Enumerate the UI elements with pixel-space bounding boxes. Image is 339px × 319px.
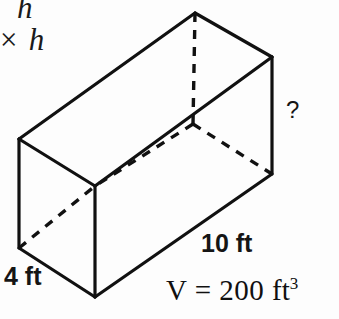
length-dimension-label: 10 ft: [201, 231, 252, 256]
hidden-edge-back-bottom-right: [193, 124, 272, 174]
edge-top-left-long: [19, 13, 195, 139]
volume-unit: ft: [272, 274, 290, 306]
edge-top-back-right: [195, 13, 272, 57]
edge-top-front-long: [95, 57, 272, 186]
volume-equals-sign: =: [195, 274, 212, 306]
volume-exponent: 3: [290, 274, 299, 293]
volume-equation: V = 200 ft3: [166, 276, 299, 305]
depth-dimension-label: 4 ft: [4, 264, 42, 289]
hidden-edge-floor-diagonal-left: [19, 186, 95, 248]
volume-value: 200: [219, 274, 264, 306]
unknown-height-label: ?: [286, 98, 299, 122]
volume-variable: V: [166, 274, 187, 306]
geometry-figure: h × h 4 ft 10 ft ? V = 200 ft3: [0, 0, 339, 319]
hidden-edge-vertical-back: [193, 13, 195, 124]
formula-fragment-line-2: × h: [0, 24, 45, 55]
formula-fragment-line-1: h: [17, 0, 33, 23]
rectangular-prism-drawing: [0, 0, 339, 319]
edge-left-face-top: [19, 139, 95, 186]
